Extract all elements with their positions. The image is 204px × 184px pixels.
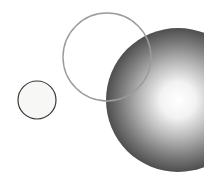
- small-outlined-circle[interactable]: [18, 81, 56, 119]
- circles-figure: [0, 0, 204, 184]
- figure-canvas: [0, 0, 204, 184]
